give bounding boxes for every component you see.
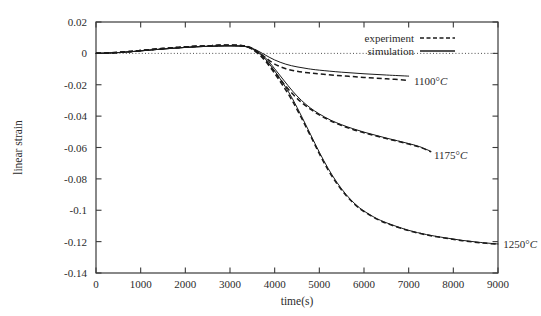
y-tick-label: -0.12 [64,236,87,248]
x-tick-label: 6000 [353,278,376,290]
y-tick-label: -0.02 [64,79,87,91]
y-tick-label: -0.08 [64,173,87,185]
annotation-1250: 1250°C [503,238,537,250]
x-tick-label: 3000 [219,278,242,290]
y-tick-label: -0.1 [70,204,87,216]
legend-label-simulation: simulation [368,45,415,57]
y-tick-label: -0.14 [64,267,87,279]
plot-frame [96,22,498,273]
x-tick-label: 1000 [130,278,153,290]
y-tick-labels: 0.020-0.02-0.04-0.06-0.08-0.1-0.12-0.14 [64,16,87,279]
x-axis-title: time(s) [281,295,314,308]
x-tick-label: 4000 [264,278,287,290]
plot-border [96,22,498,273]
legend-label-experiment: experiment [365,32,414,44]
x-tick-label: 2000 [174,278,197,290]
chart-legend: experimentsimulation [365,32,455,57]
x-tick-label: 8000 [442,278,465,290]
chart-figure: 0100020003000400050006000700080009000 0.… [0,0,541,316]
y-tick-label: -0.06 [64,142,87,154]
x-tick-label: 9000 [487,278,510,290]
linear-strain-chart: 0100020003000400050006000700080009000 0.… [0,0,541,316]
x-tick-labels: 0100020003000400050006000700080009000 [93,278,509,290]
y-tick-label: 0.02 [68,16,87,28]
annotation-1100: 1100°C [414,75,448,87]
annotation-1175: 1175°C [434,149,468,161]
x-tick-label: 7000 [398,278,421,290]
curve-1175-experiment [96,45,431,152]
axis-ticks [96,22,498,273]
y-axis-title: linear strain [12,120,24,175]
curve-1175-simulation [96,46,431,152]
y-tick-label: 0 [82,47,88,59]
x-tick-label: 5000 [308,278,331,290]
y-tick-label: -0.04 [64,110,87,122]
x-tick-label: 0 [93,278,99,290]
series-annotations: 1100°C1175°C1250°C [414,75,538,250]
